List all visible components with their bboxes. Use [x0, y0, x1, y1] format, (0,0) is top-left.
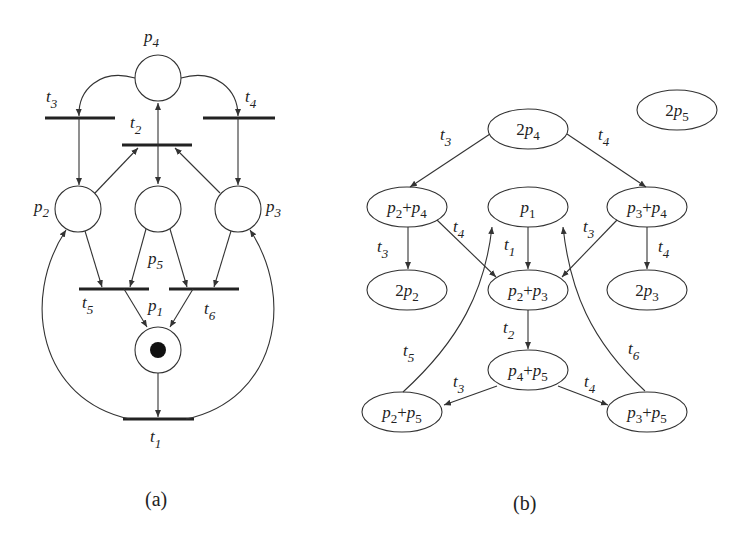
- place-p3: [215, 186, 261, 232]
- petri-net-panel: [42, 55, 275, 419]
- caption-a: (a): [145, 488, 167, 511]
- label-t6: t6: [204, 299, 216, 323]
- node-label-2p2: 2p2: [395, 281, 419, 304]
- node-label-p2p4: p2+p4: [386, 198, 427, 221]
- label-p5: p5: [147, 249, 164, 272]
- edge-label-t4: t4: [584, 372, 596, 396]
- node-label-p3p4: p3+p4: [626, 198, 667, 221]
- caption-b: (b): [513, 492, 536, 515]
- label-t2: t2: [130, 113, 142, 137]
- place-p5: [135, 186, 181, 232]
- edge-label-t1: t1: [504, 235, 515, 259]
- node-label-2p4: 2p4: [516, 120, 540, 143]
- label-p4: p4: [143, 27, 160, 50]
- arc-p3-t2: [175, 148, 220, 193]
- reachability-graph-labels: 2p4 2p5 p2+p4 p1 p3+p4 2p2 p2+p3 2p3 p4+…: [381, 101, 689, 426]
- arc-p4-t4: [181, 76, 238, 116]
- arc-t1-p2: [42, 230, 130, 419]
- petri-net-labels: p4 t3 t4 t2 p2 p3 p5 t5 p1 t6 t1 (a): [33, 27, 282, 511]
- arc-p2-t5: [85, 231, 102, 287]
- node-label-p2p3: p2+p3: [507, 281, 548, 304]
- label-p2: p2: [33, 197, 50, 220]
- edge-label-t2: t2: [503, 318, 515, 342]
- edge-label-t3: t3: [583, 217, 595, 241]
- place-p4: [135, 55, 181, 101]
- label-t5: t5: [82, 293, 94, 317]
- edge-label-t4: t4: [658, 237, 670, 261]
- node-label-p2p5: p2+p5: [381, 403, 422, 426]
- token-icon: [150, 342, 166, 358]
- arc-t6-p1: [170, 289, 193, 327]
- label-t4: t4: [245, 87, 257, 111]
- arc-p3-t6: [214, 231, 231, 287]
- label-p1: p1: [147, 296, 163, 319]
- arc-p5-t5: [130, 229, 146, 287]
- arc-p5-t6: [170, 229, 187, 287]
- reachability-edge-labels: t3 t4 t3 t4 t1 t3 t4 t2 t5 t6 t3 t4: [377, 125, 670, 396]
- edge-p2p4-p2p3: [437, 220, 496, 277]
- edge-label-t4: t4: [598, 125, 610, 149]
- figure-canvas: p4 t3 t4 t2 p2 p3 p5 t5 p1 t6 t1 (a): [0, 0, 747, 546]
- arc-t1-p3: [186, 230, 274, 419]
- edge-label-t3: t3: [440, 125, 452, 149]
- label-t1: t1: [150, 427, 161, 451]
- edge-p4p5-p2p5: [444, 386, 497, 405]
- node-label-p1: p1: [520, 198, 536, 221]
- place-p2: [55, 186, 101, 232]
- arc-p2-t2: [95, 148, 138, 193]
- edge-label-t5: t5: [403, 341, 415, 365]
- label-p3: p3: [265, 197, 282, 220]
- edge-label-t6: t6: [628, 339, 640, 363]
- edge-label-t3: t3: [377, 237, 389, 261]
- node-label-2p5: 2p5: [665, 101, 689, 124]
- node-label-2p3: 2p3: [635, 281, 659, 304]
- node-label-p4p5: p4+p5: [507, 361, 548, 384]
- edge-p4p5-p3p5: [558, 386, 608, 405]
- edge-label-t3: t3: [453, 372, 465, 396]
- label-t3: t3: [46, 87, 58, 111]
- arc-t5-p1: [124, 289, 147, 327]
- node-label-p3p5: p3+p5: [626, 403, 667, 426]
- arc-p4-t3: [79, 76, 135, 116]
